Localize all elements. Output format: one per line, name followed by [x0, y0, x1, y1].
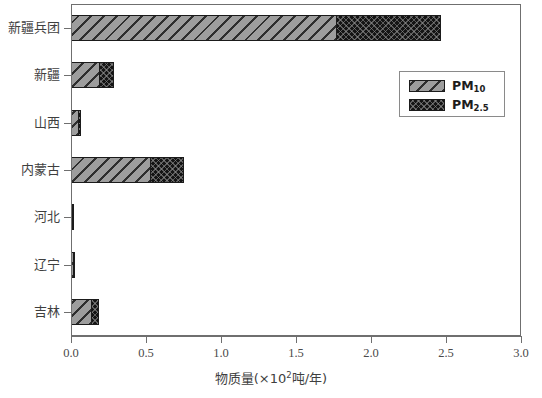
legend-label-pm25: PM2.5	[452, 97, 489, 112]
x-tick-label: 2.5	[426, 346, 466, 361]
x-tick-label: 2.0	[351, 346, 391, 361]
bar-segment-pm25	[91, 299, 99, 325]
bar-segment-pm25	[150, 157, 185, 183]
x-tick-label: 1.5	[276, 346, 316, 361]
y-axis-label-新疆: 新疆	[0, 68, 60, 81]
x-axis-title: 物质量(×102吨/年)	[0, 368, 542, 387]
y-axis-label-吉林: 吉林	[0, 305, 60, 318]
bar-新疆	[71, 62, 113, 88]
y-tick	[64, 265, 71, 266]
chart-figure: 新疆兵团新疆山西内蒙古河北辽宁吉林 0.00.51.01.52.02.53.0 …	[0, 0, 542, 398]
x-tick	[296, 336, 297, 343]
bar-segment-pm25	[336, 15, 441, 41]
y-tick	[64, 28, 71, 29]
y-axis-label-新疆兵团: 新疆兵团	[0, 21, 60, 34]
bar-segment-pm10	[71, 15, 337, 41]
plot-area	[71, 4, 521, 336]
y-tick	[64, 170, 71, 171]
x-tick	[371, 336, 372, 343]
legend-label-pm10: PM10	[452, 78, 485, 93]
x-tick-label: 1.0	[201, 346, 241, 361]
y-axis-label-辽宁: 辽宁	[0, 258, 60, 271]
bar-segment-pm10	[71, 157, 151, 183]
y-tick	[64, 217, 71, 218]
y-axis-label-河北: 河北	[0, 210, 60, 223]
x-tick	[71, 336, 72, 343]
bar-segment-pm25	[99, 62, 114, 88]
legend-entry-pm10: PM10	[409, 77, 504, 94]
y-axis-label-山西: 山西	[0, 116, 60, 129]
legend-entry-pm25: PM2.5	[409, 96, 504, 113]
x-tick	[521, 336, 522, 343]
bar-segment-pm25	[78, 110, 81, 136]
x-tick-label: 3.0	[501, 346, 541, 361]
x-tick	[221, 336, 222, 343]
legend-swatch-pm25	[409, 99, 445, 111]
y-axis-line	[71, 4, 72, 336]
bar-segment-pm25	[72, 204, 74, 230]
y-tick	[64, 312, 71, 313]
bar-segment-pm10	[71, 62, 100, 88]
x-tick-label: 0.0	[51, 346, 91, 361]
bar-内蒙古	[71, 157, 183, 183]
legend-swatch-pm10	[409, 80, 445, 92]
y-axis-label-内蒙古: 内蒙古	[0, 163, 60, 176]
bar-吉林	[71, 299, 98, 325]
x-tick	[446, 336, 447, 343]
x-tick	[146, 336, 147, 343]
y-tick	[64, 123, 71, 124]
bar-山西	[71, 110, 80, 136]
bar-segment-pm25	[73, 252, 75, 278]
y-tick	[64, 75, 71, 76]
bar-segment-pm10	[71, 299, 92, 325]
x-tick-label: 0.5	[126, 346, 166, 361]
bar-新疆兵团	[71, 15, 440, 41]
chart-legend: PM10 PM2.5	[399, 71, 505, 117]
